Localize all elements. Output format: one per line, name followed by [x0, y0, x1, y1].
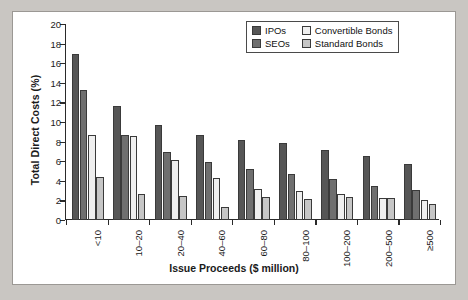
bar — [179, 196, 187, 220]
y-axis-tick-label: 12 — [50, 97, 61, 108]
x-axis-tick-mark — [191, 220, 192, 225]
y-axis-tick-label: 18 — [50, 38, 61, 49]
x-axis-category-label: 10–20 — [133, 230, 144, 256]
bar — [379, 198, 387, 220]
bar — [72, 54, 80, 220]
bar — [412, 190, 420, 220]
x-axis-tick-mark — [315, 220, 316, 225]
y-axis-tick-label: 0 — [56, 215, 61, 226]
bar — [80, 90, 88, 220]
bar — [196, 135, 204, 220]
bar-group — [72, 24, 104, 220]
bar — [404, 164, 412, 220]
bar — [346, 197, 354, 220]
bar — [138, 194, 146, 220]
bar — [246, 169, 254, 220]
x-axis-category-label: 80–100 — [300, 230, 311, 262]
bar — [254, 189, 262, 220]
x-axis-category-label: 200–500 — [383, 230, 394, 267]
x-axis-category-label: ≥500 — [424, 230, 435, 251]
bar — [288, 174, 296, 220]
x-axis-category-label: 60–80 — [258, 230, 269, 256]
y-axis-tick-label: 6 — [56, 156, 61, 167]
bar — [387, 198, 395, 220]
x-axis-tick-mark — [149, 220, 150, 225]
bar — [130, 136, 138, 220]
bar — [205, 162, 213, 220]
bar — [363, 156, 371, 220]
bar — [213, 178, 221, 220]
x-axis-category-label: 100–200 — [341, 230, 352, 267]
bar-group — [238, 24, 270, 220]
bar-group — [155, 24, 187, 220]
bar — [429, 204, 437, 220]
x-axis-tick-mark — [398, 220, 399, 225]
y-axis-line — [65, 24, 66, 220]
bar-group — [321, 24, 353, 220]
bar — [304, 199, 312, 220]
bar — [88, 135, 96, 220]
x-axis-category-label: 40–60 — [216, 230, 227, 256]
y-axis-tick-label: 2 — [56, 195, 61, 206]
bar — [337, 194, 345, 220]
x-axis-tick-mark — [274, 220, 275, 225]
y-axis-tick-label: 4 — [56, 175, 61, 186]
bar — [155, 125, 163, 220]
bar — [221, 207, 229, 220]
chart-figure: Total Direct Costs (%) Issue Proceeds ($… — [12, 11, 456, 285]
y-axis-tick-label: 20 — [50, 19, 61, 30]
x-axis-tick-mark — [357, 220, 358, 225]
bar — [171, 160, 179, 220]
y-axis-title: Total Direct Costs (%) — [29, 55, 41, 205]
x-axis-category-label: <10 — [92, 230, 103, 246]
bar — [296, 191, 304, 220]
x-axis-tick-mark — [232, 220, 233, 225]
bar-group — [363, 24, 395, 220]
x-axis-tick-mark — [66, 220, 67, 225]
bar — [329, 179, 337, 220]
bar-group — [196, 24, 228, 220]
bar — [121, 135, 129, 220]
x-axis-tick-mark — [440, 220, 441, 225]
bar — [321, 150, 329, 220]
y-axis-tick-label: 10 — [50, 117, 61, 128]
y-axis-tick-label: 8 — [56, 136, 61, 147]
bar — [279, 143, 287, 220]
bar-group — [113, 24, 145, 220]
bar-group — [279, 24, 311, 220]
bar-group — [404, 24, 436, 220]
bar — [421, 200, 429, 220]
bar — [262, 197, 270, 220]
bar — [371, 186, 379, 220]
bar — [96, 177, 104, 220]
x-axis-tick-mark — [108, 220, 109, 225]
x-axis-category-label: 20–40 — [175, 230, 186, 256]
y-axis-tick-label: 16 — [50, 58, 61, 69]
plot-area: 02468101214161820 <1010–2020–4040–6060–8… — [65, 24, 439, 220]
y-axis-tick-label: 14 — [50, 77, 61, 88]
bar — [113, 106, 121, 220]
bar — [238, 140, 246, 220]
bar — [163, 152, 171, 220]
